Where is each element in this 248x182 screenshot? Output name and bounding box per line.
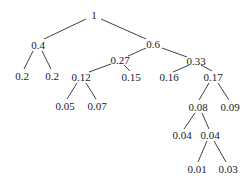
tree-node: 0.33 — [186, 55, 206, 67]
tree-edge — [214, 141, 226, 162]
tree-edge — [199, 83, 209, 100]
tree-edge — [162, 48, 187, 57]
tree-edge — [128, 48, 146, 56]
tree-node: 0.17 — [203, 71, 223, 83]
tree-edge — [42, 51, 51, 69]
tree-edge — [44, 19, 86, 39]
tree-node-root: 1 — [91, 9, 97, 21]
tree-node-leaf: 0.16 — [159, 71, 179, 83]
tree-node: 0.08 — [188, 101, 208, 113]
tree-node: 0.4 — [31, 39, 45, 51]
tree-edge — [218, 83, 229, 100]
tree-nodes: 1 0.4 0.6 0.2 0.2 0.27 0.33 0.12 0.15 0.… — [15, 9, 240, 175]
tree-edge — [101, 19, 146, 39]
tree-edge — [24, 51, 33, 69]
tree-node: 0.6 — [146, 38, 160, 50]
tree-node: 0.27 — [110, 54, 130, 66]
tree-node-leaf: 0.03 — [218, 163, 238, 175]
tree-node-leaf: 0.07 — [87, 100, 107, 112]
tree-node-leaf: 0.04 — [172, 129, 192, 141]
tree-edges — [24, 19, 229, 162]
tree-diagram: 1 0.4 0.6 0.2 0.2 0.27 0.33 0.12 0.15 0.… — [0, 0, 248, 182]
tree-edge — [89, 64, 111, 72]
tree-node-leaf: 0.01 — [187, 163, 206, 175]
tree-edge — [86, 83, 96, 99]
tree-edge — [67, 83, 77, 99]
tree-node-leaf: 0.09 — [220, 101, 240, 113]
tree-edge — [184, 113, 195, 129]
tree-node-leaf: 0.15 — [121, 71, 141, 83]
tree-node-leaf: 0.05 — [55, 100, 75, 112]
tree-edge — [198, 141, 207, 162]
tree-node-leaf: 0.2 — [45, 70, 59, 82]
tree-edge — [202, 113, 209, 129]
tree-node: 0.12 — [71, 71, 90, 83]
tree-node: 0.04 — [200, 129, 220, 141]
tree-node-leaf: 0.2 — [15, 70, 29, 82]
